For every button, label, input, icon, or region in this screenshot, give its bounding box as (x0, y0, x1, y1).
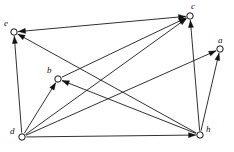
edge-e-c (18, 14, 185, 33)
graph-node-b[interactable] (55, 76, 61, 82)
directed-graph-figure: abcdeh (0, 0, 234, 152)
edge-h-c-line (190, 20, 199, 130)
graph-node-c[interactable] (187, 13, 193, 19)
node-label-h: h (206, 125, 211, 134)
graph-node-h[interactable] (197, 132, 203, 138)
edge-h-a-arrowhead-target (215, 53, 220, 61)
node-label-d: d (10, 127, 15, 136)
graph-node-a[interactable] (217, 46, 223, 52)
node-label-c: c (191, 2, 195, 11)
edge-d-c-line (25, 19, 186, 135)
edge-d-a-line (26, 51, 216, 136)
edge-e-c-line (18, 16, 185, 31)
edge-d-b-arrowhead-target (50, 83, 56, 90)
edge-d-h-line (26, 135, 195, 137)
edge-d-a-arrowhead-target (208, 51, 216, 56)
edge-d-e (12, 36, 21, 132)
edge-d-b-line (24, 83, 55, 134)
edge-h-b (62, 81, 196, 134)
edge-d-e-line (14, 36, 21, 132)
edge-e-c-arrowhead-source (18, 28, 25, 33)
graph-canvas (0, 0, 234, 152)
graph-node-d[interactable] (19, 134, 25, 140)
edge-h-e (18, 34, 196, 133)
edge-h-b-arrowhead-target (62, 81, 70, 86)
node-label-e: e (4, 19, 8, 28)
edge-d-a (26, 51, 216, 136)
edge-b-c-line (62, 18, 186, 77)
edge-h-e-line (18, 34, 196, 133)
node-label-a: a (218, 36, 223, 45)
edge-h-c-arrowhead-target (188, 20, 193, 27)
graph-node-e[interactable] (11, 29, 17, 35)
edge-h-b-line (62, 81, 196, 134)
edge-d-b (24, 83, 55, 134)
edge-d-e-arrowhead-target (12, 36, 17, 43)
edge-b-c (62, 18, 186, 77)
edge-h-e-arrowhead-target (18, 34, 26, 40)
node-label-b: b (47, 66, 52, 75)
edge-d-c (25, 19, 186, 135)
edge-h-a (201, 53, 220, 131)
edge-h-a-line (201, 53, 219, 131)
edge-d-h (26, 133, 195, 138)
edge-h-c (188, 20, 199, 130)
edges-layer (12, 14, 220, 137)
